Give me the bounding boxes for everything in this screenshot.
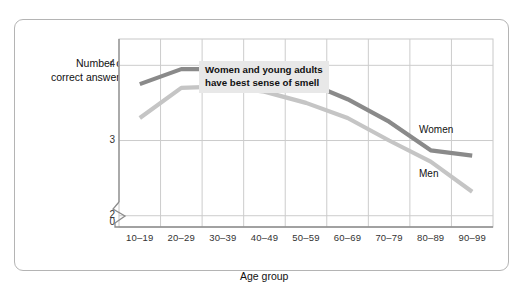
x-axis-title: Age group <box>240 270 288 282</box>
chart-annotation-callout: Women and young adults have best sense o… <box>199 61 329 93</box>
y-tick-label-zero: 0 <box>93 216 115 227</box>
x-tick-label: 90–99 <box>447 232 497 243</box>
series-label-men: Men <box>419 168 438 179</box>
y-tick-label: 4 <box>93 58 115 69</box>
series-label-women: Women <box>419 124 453 135</box>
chart-figure-frame: Number ofcorrect answers Age group 2340 … <box>14 19 509 271</box>
y-tick-label: 3 <box>93 134 115 145</box>
